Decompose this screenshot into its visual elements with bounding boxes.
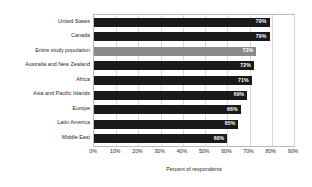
bar-row: 79% [94, 18, 270, 27]
bar-value-label: 66% [227, 107, 238, 112]
bar-row: 71% [94, 76, 252, 85]
bar-value-label: 79% [256, 34, 267, 39]
category-label: Europe [2, 106, 90, 111]
bar-value-label: 69% [234, 92, 245, 97]
x-tick-label: 50% [199, 149, 209, 154]
x-tick-label: 10% [110, 149, 120, 154]
bar-value-label: 72% [240, 63, 251, 68]
category-label: Entire study population [2, 48, 90, 53]
category-label: Asia and Pacific Islands [2, 91, 90, 96]
x-tick-label: 30% [154, 149, 164, 154]
category-label: Middle East [2, 135, 90, 140]
bar-value-label: 71% [238, 78, 249, 83]
gridline [294, 15, 295, 146]
category-label: Canada [2, 33, 90, 38]
x-tick-label: 90% [288, 149, 298, 154]
x-tick-label: 60% [221, 149, 231, 154]
category-label: Australia and New Zealand [2, 62, 90, 67]
bars-layer: 79%79%73%72%71%69%66%65%60% [94, 15, 294, 146]
bar: 73% [94, 47, 256, 56]
x-tick-label: 20% [132, 149, 142, 154]
bar-row: 66% [94, 105, 241, 114]
bar: 71% [94, 76, 252, 85]
bar-chart: United StatesCanadaEntire study populati… [0, 0, 312, 187]
x-tick-label: 70% [243, 149, 253, 154]
category-label: Latin America [2, 120, 90, 125]
bar-row: 69% [94, 91, 247, 100]
bar-value-label: 65% [225, 122, 236, 127]
bar: 79% [94, 18, 270, 27]
bar: 69% [94, 91, 247, 100]
category-axis: United StatesCanadaEntire study populati… [0, 14, 90, 147]
bar: 72% [94, 61, 254, 70]
x-axis-tick-labels: 0%10%20%30%40%50%60%70%80%90% [93, 149, 295, 159]
bar-value-label: 60% [214, 136, 225, 141]
bar-row: 60% [94, 134, 227, 143]
bar-value-label: 79% [256, 20, 267, 25]
bar: 66% [94, 105, 241, 114]
bar-value-label: 73% [243, 49, 254, 54]
bar: 65% [94, 120, 238, 129]
x-tick-label: 80% [266, 149, 276, 154]
plot-area: 79%79%73%72%71%69%66%65%60% [93, 14, 295, 147]
bar-row: 73% [94, 47, 256, 56]
bar: 79% [94, 32, 270, 41]
x-tick-label: 40% [177, 149, 187, 154]
category-label: Africa [2, 77, 90, 82]
bar: 60% [94, 134, 227, 143]
bar-row: 65% [94, 120, 238, 129]
bar-row: 79% [94, 32, 270, 41]
bar-row: 72% [94, 61, 254, 70]
x-tick-label: 0% [89, 149, 97, 154]
x-axis-title: Percent of respondents [93, 167, 295, 172]
category-label: United States [2, 19, 90, 24]
